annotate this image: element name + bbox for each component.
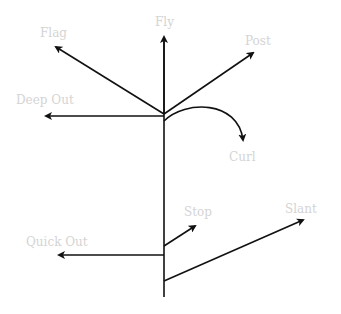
post-route	[164, 53, 253, 114]
slant-route	[164, 220, 303, 281]
fly-label: Fly	[155, 16, 174, 28]
stop-route	[164, 226, 195, 246]
deep-out-label: Deep Out	[16, 94, 74, 106]
curl-route	[164, 107, 243, 140]
route-tree-diagram: Flag Fly Post Deep Out Curl Stop Slant Q…	[0, 0, 341, 314]
quick-out-label: Quick Out	[26, 236, 88, 248]
route-lines	[0, 0, 341, 314]
curl-label: Curl	[229, 151, 255, 163]
post-label: Post	[245, 35, 271, 47]
stop-label: Stop	[184, 206, 212, 218]
slant-label: Slant	[285, 203, 317, 215]
flag-label: Flag	[40, 27, 67, 39]
